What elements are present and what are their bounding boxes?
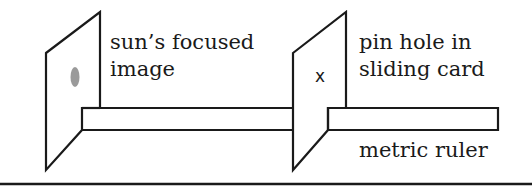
pinhole-mark: x (315, 66, 325, 86)
sun-image-label-line1: sun’s focused (110, 30, 254, 54)
image-screen-card (46, 12, 100, 170)
sun-image-label-line2: image (110, 57, 175, 81)
metric-ruler (82, 108, 498, 130)
sliding-pinhole-card (293, 12, 346, 170)
pinhole-label-line1: pin hole in (359, 30, 472, 54)
pinhole-label-line2: sliding card (359, 57, 485, 81)
ruler-label: metric ruler (359, 138, 488, 162)
sun-image-spot (71, 67, 80, 87)
